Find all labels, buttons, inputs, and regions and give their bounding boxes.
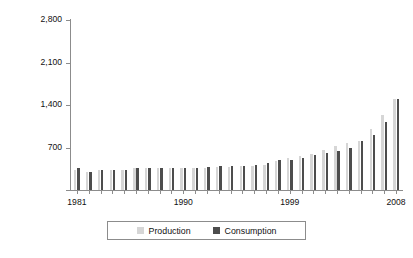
legend-swatch-production-icon — [137, 227, 144, 234]
bar-production — [322, 150, 324, 190]
x-axis-tick — [266, 191, 267, 194]
bar-production — [98, 170, 100, 190]
bar-consumption — [243, 166, 245, 190]
x-axis-tick — [148, 191, 149, 194]
bar-consumption — [361, 141, 363, 190]
bar-production — [157, 168, 159, 190]
bar-production — [121, 170, 123, 190]
bar-production — [287, 158, 289, 190]
x-axis-tick — [195, 191, 196, 194]
x-axis-tick — [112, 191, 113, 194]
bar-consumption — [136, 168, 138, 190]
bar-consumption — [397, 99, 399, 190]
bar-production — [263, 165, 265, 191]
x-axis-tick — [171, 191, 172, 194]
x-axis-tick — [124, 191, 125, 194]
x-axis-tick — [231, 191, 232, 194]
plot-area — [71, 20, 402, 190]
x-axis-tick — [396, 191, 397, 194]
bar-production — [169, 168, 171, 190]
x-axis-tick — [313, 191, 314, 194]
bar-consumption — [148, 168, 150, 190]
x-axis-tick — [325, 191, 326, 194]
bar-production — [370, 129, 372, 190]
x-axis-tick-label: 1990 — [166, 197, 200, 208]
bar-consumption — [184, 168, 186, 190]
y-axis-tick-label: 2,100 — [28, 58, 62, 67]
bar-production — [381, 115, 383, 190]
bar-production — [145, 168, 147, 190]
x-axis-tick — [290, 191, 291, 194]
x-axis-tick — [361, 191, 362, 194]
bar-consumption — [231, 166, 233, 190]
x-axis-tick — [384, 191, 385, 194]
bar-production — [310, 154, 312, 190]
bar-consumption — [77, 168, 79, 190]
bar-production — [393, 99, 395, 190]
x-axis-tick — [136, 191, 137, 194]
x-axis-tick-label: 1981 — [60, 197, 94, 208]
bar-consumption — [101, 170, 103, 190]
bar-production — [346, 143, 348, 190]
bar-consumption — [255, 165, 257, 191]
x-axis-tick — [372, 191, 373, 194]
chart-legend: Production Consumption — [107, 221, 306, 240]
bar-production — [110, 170, 112, 190]
x-axis-tick — [207, 191, 208, 194]
x-axis-tick — [242, 191, 243, 194]
bar-consumption — [172, 168, 174, 190]
bar-production — [86, 172, 88, 190]
bar-consumption — [337, 151, 339, 190]
bar-production — [251, 166, 253, 190]
x-axis-tick — [101, 191, 102, 194]
chart-container: Billion cubic feet 7001,4002,1002,800 19… — [0, 0, 413, 258]
bar-production — [204, 168, 206, 190]
legend-item-consumption[interactable]: Consumption — [213, 226, 277, 236]
bar-production — [180, 168, 182, 190]
bar-production — [299, 156, 301, 190]
y-axis-tick — [66, 190, 71, 191]
y-axis-tick-label: 1,400 — [28, 100, 62, 109]
bar-production — [358, 141, 360, 190]
x-axis-tick — [302, 191, 303, 194]
x-axis-tick-label: 2008 — [379, 197, 413, 208]
x-axis-tick — [254, 191, 255, 194]
x-axis-tick — [160, 191, 161, 194]
x-axis-tick-label: 1999 — [273, 197, 307, 208]
bar-consumption — [125, 170, 127, 190]
bar-production — [216, 167, 218, 190]
legend-item-production[interactable]: Production — [137, 226, 191, 236]
x-axis-tick — [278, 191, 279, 194]
bar-consumption — [113, 170, 115, 190]
x-axis-tick — [89, 191, 90, 194]
bar-production — [275, 161, 277, 190]
bar-consumption — [89, 172, 91, 190]
bar-consumption — [326, 153, 328, 190]
y-axis-tick-label: 2,800 — [28, 15, 62, 24]
x-axis-tick — [219, 191, 220, 194]
bar-consumption — [219, 166, 221, 190]
bar-consumption — [302, 158, 304, 190]
bar-consumption — [385, 122, 387, 190]
x-axis-line — [66, 190, 403, 191]
y-axis-tick-label: 700 — [28, 143, 62, 152]
bar-production — [192, 168, 194, 190]
x-axis-tick — [349, 191, 350, 194]
x-axis-tick — [183, 191, 184, 194]
bar-consumption — [207, 167, 209, 190]
bar-consumption — [278, 160, 280, 190]
bar-consumption — [267, 163, 269, 190]
bar-production — [74, 170, 76, 190]
bar-consumption — [290, 160, 292, 190]
bar-consumption — [196, 168, 198, 190]
bar-production — [240, 166, 242, 190]
legend-swatch-consumption-icon — [213, 227, 220, 234]
bar-production — [228, 167, 230, 190]
legend-label-production: Production — [149, 226, 191, 236]
bar-consumption — [160, 168, 162, 190]
x-axis-tick — [337, 191, 338, 194]
bar-production — [334, 146, 336, 190]
legend-label-consumption: Consumption — [225, 226, 277, 236]
bar-consumption — [373, 135, 375, 190]
bar-consumption — [314, 155, 316, 190]
